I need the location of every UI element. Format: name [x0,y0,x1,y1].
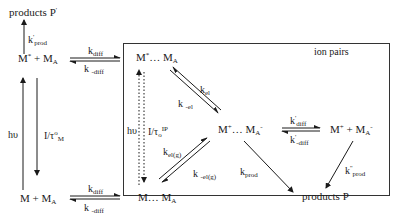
label-tau-box: I/τoIP [148,126,168,139]
species-free-ions: M+ + MA- [330,124,373,137]
diagram-lines [0,0,396,221]
products-p-prime: products P' [9,7,57,18]
label-k-diff-top: kdiff [88,46,103,58]
label-k-prod-prime: k'prod [28,34,47,47]
label-hv-box: hυ [127,126,137,136]
label-k-minus-el-g: k -el(g) [193,169,216,181]
label-k-el: kel [200,85,210,97]
species-products-p: products P [302,191,349,202]
label-k-prod: kprod [240,167,258,179]
label-k-prod-double-prime: k''prod [345,165,365,178]
label-tau-left: I/τoM [44,130,64,143]
species-excited-complex: M*… MA [136,52,178,65]
species-ground-pair: M + MA [20,193,56,206]
species-excited-pair: M* + MA [18,53,58,66]
species-ion-pair: M+… MA- [218,124,263,137]
label-k-el-g: kel(g) [163,147,181,159]
label-hv-left: hυ [8,130,18,140]
species-ground-complex: M… MA [138,192,176,205]
label-k-minus-el: k -el [178,99,193,111]
label-k-minus-diff-prime: k'-diff [290,134,309,147]
label-k-diff-bottom: kdiff [88,184,103,196]
label-k-minus-diff-top: k -diff [84,64,104,76]
label-k-minus-diff-bottom: k -diff [84,203,104,215]
label-k-diff-prime: k'diff [290,115,306,128]
box-label-ion-pairs: ion pairs [314,47,349,57]
